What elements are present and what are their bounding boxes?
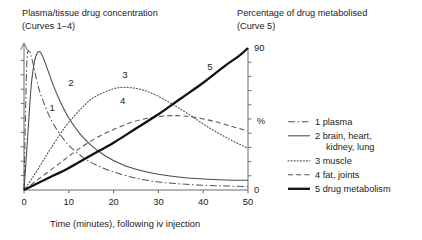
legend-item[interactable]: 4 fat, joints xyxy=(288,170,360,180)
legend-item[interactable]: 5 drug metabolism xyxy=(288,184,391,194)
chart-figure: Plasma/tissue drug concentration (Curves… xyxy=(0,0,422,240)
right-axis-label-0: 0 xyxy=(254,184,259,195)
curve-number-label-2: 2 xyxy=(68,77,73,88)
curve-number-label-3: 3 xyxy=(122,69,127,80)
right-axis-title-line2: (Curve 5) xyxy=(237,21,275,31)
legend-item[interactable]: 2 brain, heart,kidney, lung xyxy=(288,131,374,152)
plot-curves xyxy=(24,48,248,190)
legend-label-4: 4 fat, joints xyxy=(315,170,360,180)
legend: 1 plasma2 brain, heart,kidney, lung3 mus… xyxy=(288,117,391,194)
x-axis-tick-label: 10 xyxy=(64,196,74,207)
legend-label-5: 5 drug metabolism xyxy=(315,184,391,194)
x-axis-tick-label: 30 xyxy=(153,196,163,207)
legend-label-2: 2 brain, heart, xyxy=(315,131,372,141)
curve-number-label-1: 1 xyxy=(50,102,55,113)
right-axis-ticks xyxy=(248,62,251,176)
legend-label-2-line2: kidney, lung xyxy=(326,142,374,152)
x-axis-tick-label: 40 xyxy=(198,196,208,207)
x-axis-tick-label: 20 xyxy=(108,196,118,207)
x-axis-title: Time (minutes), following iv injection xyxy=(50,218,200,229)
legend-label-1: 1 plasma xyxy=(315,117,353,127)
legend-item[interactable]: 3 muscle xyxy=(288,156,352,166)
right-axis-label-90: 90 xyxy=(254,42,264,53)
x-axis-tick-label: 0 xyxy=(21,196,26,207)
x-axis-ticks xyxy=(24,190,248,193)
inline-curve-labels: 12345 xyxy=(50,61,213,113)
curve-fat xyxy=(24,116,248,190)
right-axis-title-line1: Percentage of drug metabolised xyxy=(237,8,367,18)
left-axis-title-line1: Plasma/tissue drug concentration xyxy=(22,8,158,18)
right-axis: 90 0 % xyxy=(248,42,265,195)
legend-item[interactable]: 1 plasma xyxy=(288,117,353,127)
x-axis-tick-label: 50 xyxy=(243,196,253,207)
curve-number-label-5: 5 xyxy=(207,61,212,72)
curve-number-label-4: 4 xyxy=(120,95,126,106)
x-axis-tick-labels: 01020304050 xyxy=(21,196,253,207)
legend-label-3: 3 muscle xyxy=(315,156,352,166)
left-axis-title-line2: (Curves 1–4) xyxy=(22,21,75,31)
right-axis-unit-percent: % xyxy=(257,116,265,126)
curve-drug-metabolism xyxy=(24,48,248,190)
x-axis: 01020304050 xyxy=(21,190,253,207)
